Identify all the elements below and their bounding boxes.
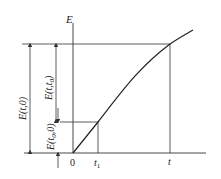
strain-curve: [73, 30, 193, 153]
t1-label: t1: [94, 157, 101, 170]
dim-label-e-t-t0: E(t,t0): [43, 75, 56, 101]
e-axis-label: E: [65, 13, 73, 25]
origin-label: 0: [70, 157, 75, 168]
strain-time-diagram: E 0 t1 t E(t,0) E(t,t0) E(t0,0): [0, 0, 221, 179]
dim-label-e-t-0: E(t,0): [17, 96, 29, 121]
dim-label-e-t0-0: E(t0,0): [45, 123, 58, 151]
t-label: t: [168, 156, 171, 167]
